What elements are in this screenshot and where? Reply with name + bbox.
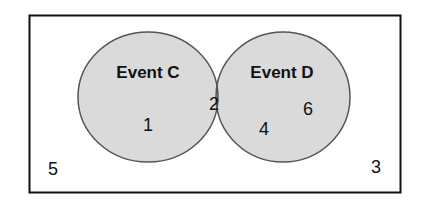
event-c-only-value: 1 (143, 115, 153, 135)
event-c-label: Event C (116, 63, 179, 82)
outside-value-left: 5 (48, 159, 58, 179)
intersection-value: 2 (209, 94, 219, 114)
event-d-value-4: 4 (259, 119, 269, 139)
venn-diagram: Event C Event D 1 2 6 4 5 3 (0, 0, 422, 203)
outside-value-right: 3 (371, 157, 381, 177)
event-d-label: Event D (250, 63, 313, 82)
event-d-value-6: 6 (303, 99, 313, 119)
